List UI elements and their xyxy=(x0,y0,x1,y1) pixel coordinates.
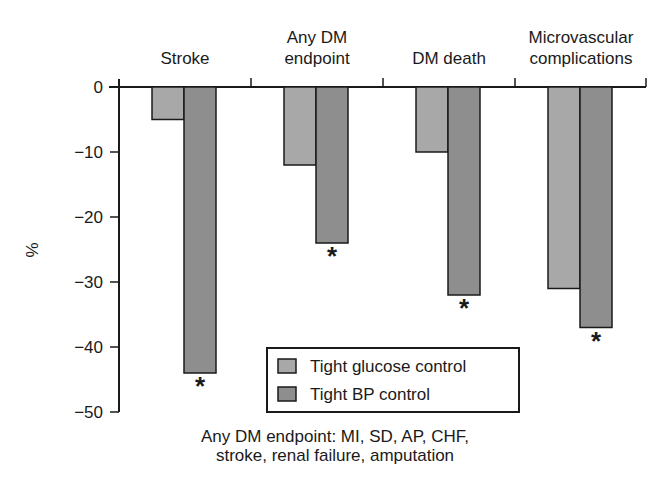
y-tick-label: −40 xyxy=(74,338,103,357)
legend: Tight glucose control Tight BP control xyxy=(267,348,519,412)
y-tick-label: −50 xyxy=(74,403,103,422)
bar xyxy=(580,87,612,328)
legend-label-glucose: Tight glucose control xyxy=(310,357,466,376)
category-label: endpoint xyxy=(284,49,350,68)
bar xyxy=(316,87,348,243)
bar xyxy=(448,87,480,295)
bar xyxy=(152,87,184,120)
bar xyxy=(284,87,316,165)
significance-star: * xyxy=(459,293,470,323)
y-tick-label: −20 xyxy=(74,208,103,227)
category-label: complications xyxy=(530,49,633,68)
y-tick-label: −10 xyxy=(74,143,103,162)
y-axis-label: % xyxy=(23,242,42,257)
legend-swatch-glucose xyxy=(278,359,296,373)
bar-chart: StrokeAny DMendpointDM deathMicrovascula… xyxy=(0,0,670,491)
bar xyxy=(184,87,216,373)
significance-star: * xyxy=(195,371,206,401)
category-label: DM death xyxy=(412,49,486,68)
footnote-line-1: Any DM endpoint: MI, SD, AP, CHF, xyxy=(0,427,670,446)
bars xyxy=(152,87,612,373)
category-label: Any DM xyxy=(287,28,347,47)
y-tick-label: 0 xyxy=(94,78,103,97)
legend-swatch-bp xyxy=(278,387,296,401)
footnote: Any DM endpoint: MI, SD, AP, CHF, stroke… xyxy=(0,427,670,465)
category-label: Stroke xyxy=(160,49,209,68)
footnote-line-2: stroke, renal failure, amputation xyxy=(0,446,670,465)
y-tick-label: −30 xyxy=(74,273,103,292)
legend-label-bp: Tight BP control xyxy=(310,385,430,404)
category-label: Microvascular xyxy=(529,28,634,47)
bar xyxy=(416,87,448,152)
category-labels: StrokeAny DMendpointDM deathMicrovascula… xyxy=(160,28,633,68)
significance-star: * xyxy=(327,241,338,271)
significance-star: * xyxy=(591,326,602,356)
bar xyxy=(548,87,580,289)
